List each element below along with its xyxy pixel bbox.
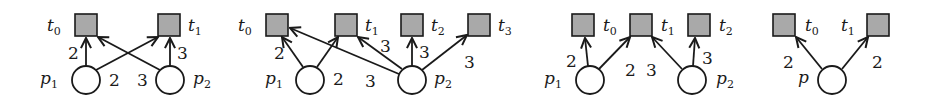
transition-t1: [335, 14, 357, 36]
transition-t0: [773, 14, 795, 36]
weight-p2-t1: 3: [380, 36, 391, 56]
label-t1: t1: [188, 15, 202, 38]
label-p1: p1: [265, 68, 283, 91]
weight-p1-ta: 2: [566, 51, 577, 71]
petri-net-2: t0 t1 t2 t3 p1 p2 2 2 3 3 3 3: [238, 14, 512, 94]
place-p1: [72, 66, 100, 94]
label-t2: t2: [431, 15, 445, 38]
transition-t0: [266, 14, 288, 36]
petri-net-4: t0 t1 p 2 2: [773, 14, 889, 94]
petri-net-figure: t0 t1 p1 p2 2 2 3 3 t0 t1 t2 t3 p1 p2 2 …: [0, 0, 926, 102]
label-t0: t0: [47, 15, 61, 38]
arc-p2-t0: [98, 37, 160, 70]
weight-p2-t0: 3: [137, 70, 148, 90]
place-p1: [576, 66, 604, 94]
label-t3: t3: [498, 15, 512, 38]
label-t0: t0: [238, 15, 252, 38]
transition-ta: [572, 14, 594, 36]
transition-t2: [401, 14, 423, 36]
weight-p1-t0: 2: [625, 60, 636, 80]
label-p2: p2: [716, 68, 734, 91]
arc-p1-t1: [96, 37, 158, 70]
place-p2: [156, 66, 184, 94]
petri-net-1: t0 t1 p1 p2 2 2 3 3: [40, 14, 211, 94]
weight-p1-t0: 2: [274, 43, 285, 63]
transition-t3: [468, 14, 490, 36]
label-t1: t1: [661, 15, 675, 38]
weight-p2-t0: 3: [646, 60, 657, 80]
transition-t1: [867, 14, 889, 36]
place-p: [818, 66, 846, 94]
label-p1: p1: [40, 68, 58, 91]
weight-p2-t0: 3: [365, 71, 376, 91]
arc-p2-t1: [693, 38, 695, 66]
label-p2: p2: [193, 68, 211, 91]
arc-p-t0: [796, 37, 822, 69]
label-t2: t2: [719, 15, 733, 38]
label-p1: p1: [544, 68, 562, 91]
arc-p1-ta: [585, 38, 588, 66]
place-p2: [398, 66, 426, 94]
weight-p2-t2: 3: [419, 42, 430, 62]
label-t0: t0: [805, 15, 819, 38]
transition-t1: [688, 14, 710, 36]
weight-p2-t1: 3: [177, 43, 188, 63]
place-p1: [296, 66, 324, 94]
label-t1: t1: [365, 15, 379, 38]
transition-t0: [630, 14, 652, 36]
weight-p1-t0: 2: [68, 43, 79, 63]
weight-p-t1: 2: [872, 52, 883, 72]
weight-p1-t1: 2: [333, 69, 344, 89]
arc-p-t1: [842, 37, 868, 69]
weight-p-t0: 2: [783, 52, 794, 72]
label-p: p: [798, 67, 809, 87]
arc-p1-t0: [282, 37, 303, 67]
weight-p2-t1: 3: [702, 48, 713, 68]
petri-net-3: t0 t1 t2 p1 p2 2 2 3 3: [544, 14, 734, 94]
label-t0: t0: [603, 15, 617, 38]
label-p2: p2: [434, 68, 452, 91]
transition-t1: [158, 14, 180, 36]
transition-t0: [75, 14, 97, 36]
weight-p1-t1: 2: [109, 70, 120, 90]
label-t1: t1: [841, 15, 855, 38]
weight-p2-t3: 3: [464, 52, 475, 72]
place-p2: [678, 66, 706, 94]
